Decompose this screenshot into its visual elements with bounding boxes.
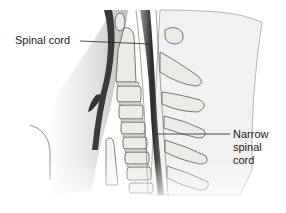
narrow-spinal-cord-label: Narrow spinal cord: [233, 128, 268, 167]
narrow-label-line-3: cord: [233, 154, 268, 167]
narrow-label-line-2: spinal: [233, 141, 268, 154]
narrow-label-line-1: Narrow: [233, 128, 268, 141]
spinal-cord-label: Spinal cord: [15, 34, 70, 47]
spine-illustration: [0, 0, 286, 213]
